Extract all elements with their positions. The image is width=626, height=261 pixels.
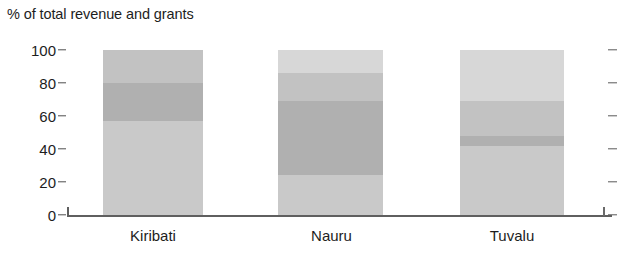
bar-segment-tuvalu-3 xyxy=(460,101,564,136)
y-axis-tick-mark-60 xyxy=(58,115,66,116)
y-axis-tick-label-100: 100 xyxy=(31,42,56,59)
x-axis-category-label-kiribati: Kiribati xyxy=(103,227,203,244)
bar-segment-kiribati-3 xyxy=(103,50,203,83)
y-axis-right-tick-mark-100 xyxy=(608,49,617,50)
bar-kiribati xyxy=(103,50,203,215)
y-axis-right-stub xyxy=(603,207,605,216)
bar-segment-nauru-4 xyxy=(278,50,383,73)
bar-segment-kiribati-1 xyxy=(103,121,203,215)
y-axis-tick-mark-40 xyxy=(58,148,66,149)
bar-segment-kiribati-2 xyxy=(103,83,203,121)
stacked-bar-chart: % of total revenue and grants 100 80 60 … xyxy=(0,0,626,261)
y-axis-tick-mark-0 xyxy=(58,214,66,215)
y-axis-tick-label-40: 40 xyxy=(39,141,56,158)
y-axis-tick-label-60: 60 xyxy=(39,108,56,125)
bar-segment-tuvalu-2 xyxy=(460,136,564,146)
bar-segment-nauru-3 xyxy=(278,73,383,101)
bar-nauru xyxy=(278,50,383,215)
y-axis-right-tick-mark-40 xyxy=(608,148,617,149)
y-axis-tick-mark-80 xyxy=(58,82,66,83)
x-axis-line xyxy=(67,215,612,217)
bar-segment-nauru-1 xyxy=(278,175,383,215)
x-axis-category-label-tuvalu: Tuvalu xyxy=(460,227,564,244)
bar-tuvalu xyxy=(460,50,564,215)
y-axis-tick-label-80: 80 xyxy=(39,75,56,92)
y-axis-tick-label-0: 0 xyxy=(48,207,56,224)
plot-area: 100 80 60 40 20 0 xyxy=(0,0,626,261)
bar-segment-tuvalu-1 xyxy=(460,146,564,215)
y-axis-tick-mark-100 xyxy=(58,49,66,50)
y-axis-right-tick-mark-80 xyxy=(608,82,617,83)
y-axis-tick-mark-20 xyxy=(58,181,66,182)
y-axis-left-stub xyxy=(67,207,69,216)
y-axis-right-tick-mark-20 xyxy=(608,181,617,182)
y-axis-tick-label-20: 20 xyxy=(39,174,56,191)
bar-segment-tuvalu-4 xyxy=(460,50,564,101)
bar-segment-nauru-2 xyxy=(278,101,383,175)
y-axis-right-tick-mark-60 xyxy=(608,115,617,116)
x-axis-category-label-nauru: Nauru xyxy=(280,227,383,244)
